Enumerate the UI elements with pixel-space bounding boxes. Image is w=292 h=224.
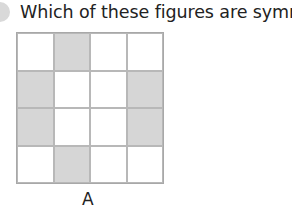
- figure-a-grid: [16, 32, 164, 184]
- grid-cell: [127, 71, 164, 109]
- grid-cell: [90, 146, 127, 184]
- question-number-circle: [0, 2, 10, 22]
- grid-cell: [90, 108, 127, 146]
- grid-cell: [90, 71, 127, 109]
- grid-cell: [127, 146, 164, 184]
- grid-cell: [127, 33, 164, 71]
- grid-cell: [54, 33, 91, 71]
- grid-cell: [54, 71, 91, 109]
- figure-label: A: [82, 189, 94, 209]
- grid-cell: [127, 108, 164, 146]
- question-text: Which of these figures are symmetric?: [20, 2, 292, 22]
- grid-cell: [90, 33, 127, 71]
- grid-cell: [54, 108, 91, 146]
- grid-cell: [54, 146, 91, 184]
- grid-cell: [17, 146, 54, 184]
- grid-cell: [17, 71, 54, 109]
- grid-cell: [17, 108, 54, 146]
- grid-cell: [17, 33, 54, 71]
